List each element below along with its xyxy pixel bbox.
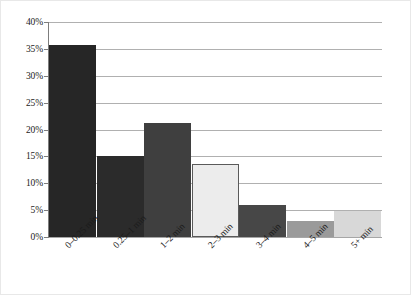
- y-axis-tick-label: 15%: [3, 151, 43, 161]
- bar: [49, 45, 96, 237]
- y-axis-tick-label: 0%: [3, 232, 43, 242]
- y-axis-labels: 0%5%10%15%20%25%30%35%40%: [1, 22, 43, 237]
- y-axis-tick-label: 35%: [3, 44, 43, 54]
- y-tick-mark: [44, 210, 49, 211]
- x-axis-labels: 0–0.25 min0.25–1 min1–2 min2–3 min3–4 mi…: [49, 237, 382, 295]
- y-tick-mark: [44, 130, 49, 131]
- y-axis-tick-label: 5%: [3, 205, 43, 215]
- y-axis-tick-label: 30%: [3, 71, 43, 81]
- bar-chart: 0%5%10%15%20%25%30%35%40% 0–0.25 min0.25…: [0, 0, 411, 295]
- y-tick-mark: [44, 49, 49, 50]
- y-tick-mark: [44, 183, 49, 184]
- y-tick-mark: [44, 237, 49, 238]
- y-tick-mark: [44, 156, 49, 157]
- y-tick-mark: [44, 22, 49, 23]
- y-axis-tick-label: 40%: [3, 17, 43, 27]
- y-tick-mark: [44, 76, 49, 77]
- bar-series: [49, 22, 382, 237]
- y-tick-mark: [44, 103, 49, 104]
- y-axis-tick-label: 10%: [3, 178, 43, 188]
- bar: [144, 123, 191, 237]
- y-axis-tick-label: 25%: [3, 98, 43, 108]
- y-axis-tick-label: 20%: [3, 125, 43, 135]
